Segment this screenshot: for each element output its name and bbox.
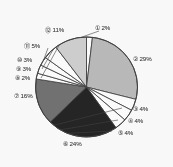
slice-label-6: ⑥ 24% — [63, 140, 82, 147]
slice-label-10: ⑩ 3% — [17, 56, 32, 63]
leader-line-1 — [81, 31, 99, 37]
slice-label-3: ③ 4% — [133, 105, 148, 112]
slice-label-5: ⑤ 4% — [118, 129, 133, 136]
slice-label-9: ⑨ 3% — [16, 65, 31, 72]
slice-label-1: ① 2% — [95, 24, 110, 31]
slice-label-8: ⑧ 2% — [15, 74, 30, 81]
slice-label-2: ② 29% — [133, 55, 152, 62]
pie-chart-svg — [0, 0, 173, 167]
slice-label-7: ⑦ 16% — [14, 92, 33, 99]
pie-chart-figure: ① 2% ② 29% ③ 4% ④ 4% ⑤ 4% ⑥ 24% ⑦ 16% ⑧ … — [0, 0, 173, 167]
slice-label-4: ④ 4% — [128, 117, 143, 124]
slice-label-12: ⑫ 11% — [45, 26, 64, 33]
slice-label-11: ⑪ 5% — [24, 42, 40, 49]
pie-slices-group — [35, 31, 137, 137]
